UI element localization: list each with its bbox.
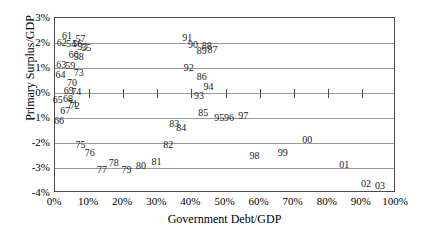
x-tick-mark <box>157 89 158 98</box>
scatter-chart: Primary Surplus/GDP 3%2%1%0%-1%-2%-3%-4%… <box>0 0 442 238</box>
data-point-label: 80 <box>136 161 146 171</box>
data-point-label: 98 <box>249 151 259 161</box>
data-point-label: 79 <box>122 165 132 175</box>
data-point-label: 78 <box>109 158 119 168</box>
data-point-label: 97 <box>238 111 248 121</box>
data-point-label: 85 <box>198 108 208 118</box>
data-point-label: 84 <box>176 123 186 133</box>
y-tick-label: 0% <box>4 87 50 98</box>
y-tick-label: -2% <box>4 137 50 148</box>
data-point-label: 89 <box>197 46 207 56</box>
x-axis-tick-labels: 0%10%20%30%40%50%60%70%80%90%100% <box>0 196 442 212</box>
x-tick-mark <box>294 89 295 98</box>
data-point-label: 00 <box>302 135 312 145</box>
data-point-label: 93 <box>194 91 204 101</box>
gridline <box>55 143 394 144</box>
data-point-label: 58 <box>74 52 84 62</box>
data-point-label: 66 <box>54 116 64 126</box>
data-point-label: 82 <box>163 140 173 150</box>
x-tick-mark <box>89 89 90 98</box>
x-tick-mark <box>226 89 227 98</box>
data-point-label: 02 <box>361 179 371 189</box>
gridline <box>55 93 394 94</box>
x-axis-title: Government Debt/GDP <box>54 213 395 225</box>
x-tick-label: 100% <box>375 196 415 207</box>
y-tick-label: -3% <box>4 162 50 173</box>
x-tick-mark <box>191 89 192 98</box>
gridline <box>55 43 394 44</box>
data-point-label: 91 <box>182 33 192 43</box>
x-tick-mark <box>328 89 329 98</box>
data-point-label: 03 <box>375 181 385 191</box>
data-point-label: 01 <box>339 160 349 170</box>
data-point-label: 96 <box>224 113 234 123</box>
x-tick-mark <box>123 89 124 98</box>
data-point-label: 65 <box>53 95 63 105</box>
y-tick-label: -1% <box>4 112 50 123</box>
data-point-label: 94 <box>203 82 213 92</box>
x-tick-mark <box>362 89 363 98</box>
gridline <box>55 68 394 69</box>
data-point-label: 92 <box>184 63 194 73</box>
x-tick-mark <box>260 89 261 98</box>
data-point-label: 99 <box>278 148 288 158</box>
data-point-label: 76 <box>85 148 95 158</box>
data-point-label: 95 <box>214 113 224 123</box>
data-point-label: 62 <box>57 38 67 48</box>
data-point-label: 77 <box>97 165 107 175</box>
plot-area: 6157625456535560586359647370697465687172… <box>54 17 395 192</box>
data-point-label: 81 <box>152 157 162 167</box>
data-point-label: 72 <box>70 101 80 111</box>
data-point-label: 64 <box>55 70 65 80</box>
y-tick-label: 1% <box>4 62 50 73</box>
y-tick-label: 3% <box>4 12 50 23</box>
y-tick-label: 2% <box>4 37 50 48</box>
